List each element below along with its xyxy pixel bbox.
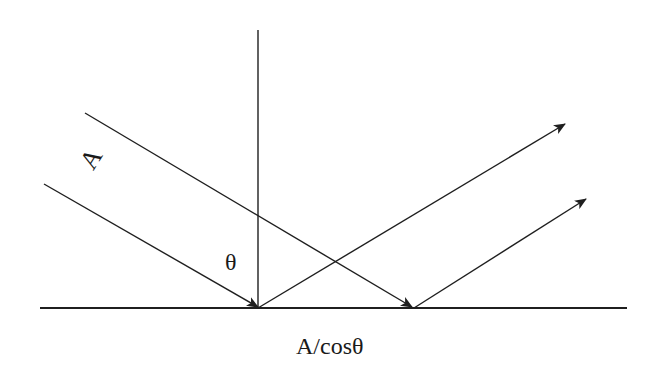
projected-width-label: A/cosθ [296, 334, 364, 358]
angle-label: θ [225, 250, 237, 274]
reflected-ray-2 [414, 199, 586, 308]
reflection-diagram [0, 0, 655, 377]
reflected-ray-1 [258, 124, 565, 308]
incident-ray-2 [85, 113, 412, 307]
incident-ray-1 [44, 184, 258, 307]
